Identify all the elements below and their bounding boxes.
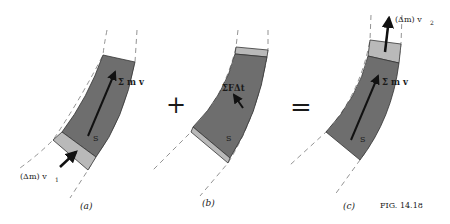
panel-caption-a: (a) (80, 201, 93, 211)
plus-operator: + (166, 91, 186, 119)
system-label: S (226, 134, 231, 143)
mass-out-label: (Δm) v (395, 15, 422, 24)
system-label: S (360, 135, 365, 144)
panel-caption-c: (c) (343, 201, 356, 211)
mass-in-label: (Δm) v (20, 172, 47, 181)
momentum-label: Σ m v (382, 77, 409, 87)
impulse-label: ΣFΔt (222, 83, 245, 93)
system-region-dark (326, 56, 399, 160)
figure-caption: FIG. 14.18 (380, 201, 423, 210)
panel-b: ΣFΔt S (b) (153, 30, 268, 208)
system-label: S (93, 134, 98, 143)
mass-in-subscript: 1 (55, 176, 59, 183)
mass-out-subscript: 2 (430, 19, 434, 26)
inflow-arrow-icon (60, 152, 76, 167)
figure-14-18: Σ m v S (Δm) v 1 (a) + ΣFΔt S (b) = (Δm)… (0, 0, 450, 224)
momentum-label: Σ m v (118, 77, 145, 87)
equals-operator: = (290, 92, 312, 122)
panel-a: Σ m v S (Δm) v 1 (a) (20, 30, 145, 211)
panel-caption-b: (b) (202, 198, 215, 208)
